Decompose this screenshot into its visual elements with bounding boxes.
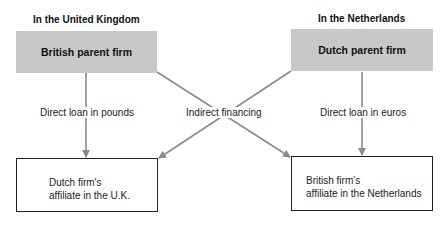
label-direct-loan-euros: Direct loan in euros (318, 107, 408, 118)
dutch-affiliate-uk-box: Dutch firm's affiliate in the U.K. (16, 158, 158, 212)
label-indirect-financing: Indirect financing (184, 107, 264, 118)
british-parent-firm-box: British parent firm (16, 31, 157, 73)
dutch-affiliate-uk-line2: affiliate in the U.K. (49, 189, 130, 202)
british-affiliate-nl-line2: affiliate in the Netherlands (306, 187, 421, 200)
british-affiliate-nl-box: British firm's affiliate in the Netherla… (291, 156, 433, 211)
heading-united-kingdom: In the United Kingdom (33, 14, 140, 25)
british-affiliate-nl-line1: British firm's (306, 174, 421, 187)
dutch-affiliate-uk-line1: Dutch firm's (49, 176, 130, 189)
dutch-parent-firm-label: Dutch parent firm (318, 44, 406, 56)
heading-netherlands: In the Netherlands (318, 13, 405, 24)
british-parent-firm-label: British parent firm (41, 46, 132, 58)
dutch-parent-firm-box: Dutch parent firm (291, 29, 433, 71)
label-direct-loan-pounds: Direct loan in pounds (38, 107, 136, 118)
